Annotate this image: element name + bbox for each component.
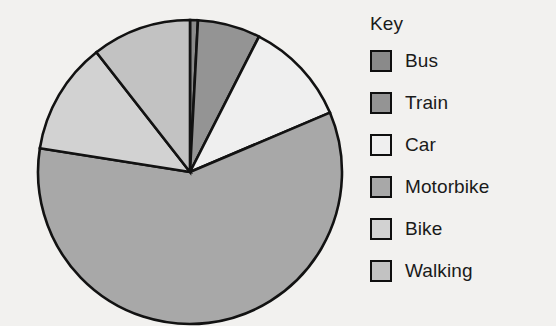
legend-label: Car xyxy=(405,134,436,156)
legend-label: Train xyxy=(405,92,448,114)
legend-items-list: BusTrainCarMotorbikeBikeWalking xyxy=(368,40,556,292)
legend-swatch-motorbike xyxy=(370,176,392,198)
legend-item-walking[interactable]: Walking xyxy=(368,250,556,292)
legend-item-car[interactable]: Car xyxy=(368,124,556,166)
chart-legend: Key BusTrainCarMotorbikeBikeWalking xyxy=(368,8,556,320)
legend-item-train[interactable]: Train xyxy=(368,82,556,124)
legend-swatch-bike xyxy=(370,218,392,240)
pie-chart-graphic xyxy=(0,0,370,326)
legend-swatch-bus xyxy=(370,50,392,72)
legend-title: Key xyxy=(370,14,556,33)
legend-swatch-car xyxy=(370,134,392,156)
legend-label: Bike xyxy=(405,218,442,240)
legend-item-motorbike[interactable]: Motorbike xyxy=(368,166,556,208)
legend-item-bus[interactable]: Bus xyxy=(368,40,556,82)
legend-swatch-train xyxy=(370,92,392,114)
legend-label: Motorbike xyxy=(405,176,489,198)
legend-swatch-walking xyxy=(370,260,392,282)
pie-chart-figure: Key BusTrainCarMotorbikeBikeWalking xyxy=(0,0,556,326)
legend-label: Bus xyxy=(405,50,438,72)
legend-label: Walking xyxy=(405,260,473,282)
pie-slice-group xyxy=(38,20,342,324)
legend-item-bike[interactable]: Bike xyxy=(368,208,556,250)
